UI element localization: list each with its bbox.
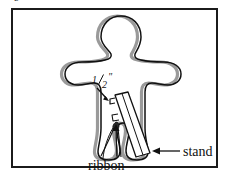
illustration-canvas: 1 2 " ribbon stand — [0, 0, 231, 178]
half-inch-numerator: 1 — [92, 74, 97, 85]
ribbon-label: ribbon — [88, 158, 125, 173]
half-inch-denominator: 2 — [102, 79, 107, 90]
figure-illustration: b 1 — [0, 0, 231, 178]
ribbon-slot — [112, 114, 119, 121]
stand-label: stand — [183, 144, 213, 159]
slot-notch — [110, 98, 115, 104]
